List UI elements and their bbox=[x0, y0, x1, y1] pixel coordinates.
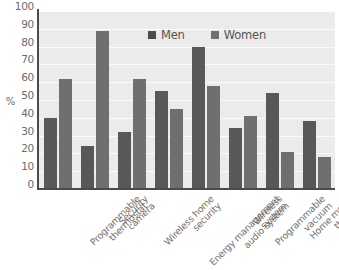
bar-men bbox=[266, 93, 279, 189]
bar-women bbox=[207, 86, 220, 189]
chart-legend: MenWomen bbox=[148, 28, 266, 42]
bar-men bbox=[155, 91, 168, 189]
y-axis-tick-labels: 0102030405060708090100 bbox=[14, 6, 36, 189]
legend-swatch-icon bbox=[148, 31, 156, 39]
y-axis-tick-label: 40 bbox=[21, 108, 34, 118]
y-axis-tick-label: 50 bbox=[21, 90, 34, 100]
bar-women bbox=[318, 157, 331, 189]
y-axis-tick-label: 0 bbox=[28, 179, 34, 189]
bar-men bbox=[229, 128, 242, 189]
bar-men bbox=[118, 132, 131, 189]
y-axis-tick-label: 100 bbox=[15, 1, 34, 11]
bar-group bbox=[298, 11, 335, 189]
bar-women bbox=[244, 116, 257, 189]
y-axis-tick-label: 80 bbox=[21, 37, 34, 47]
y-axis-tick-label: 30 bbox=[21, 126, 34, 136]
y-axis-tick-label: 70 bbox=[21, 54, 34, 64]
y-axis-tick-label: 20 bbox=[21, 143, 34, 153]
bar-group bbox=[39, 11, 76, 189]
bar-men bbox=[192, 47, 205, 189]
legend-label: Women bbox=[224, 28, 266, 42]
bar-women bbox=[133, 79, 146, 189]
y-axis-tick-label: 10 bbox=[21, 161, 34, 171]
legend-label: Men bbox=[161, 28, 185, 42]
legend-item-women: Women bbox=[211, 28, 266, 42]
legend-item-men: Men bbox=[148, 28, 185, 42]
bar-men bbox=[303, 121, 316, 189]
bar-chart: % 0102030405060708090100 MenWomen Progra… bbox=[0, 0, 339, 270]
y-axis-title: % bbox=[1, 96, 15, 107]
y-axis-line bbox=[37, 9, 39, 190]
x-axis-category-labels: ProgrammablethermostatSecuritycameraWire… bbox=[39, 191, 335, 270]
bar-group bbox=[113, 11, 150, 189]
legend-swatch-icon bbox=[211, 31, 219, 39]
bar-women bbox=[59, 79, 72, 189]
bar-men bbox=[44, 118, 57, 189]
y-axis-tick-label: 60 bbox=[21, 72, 34, 82]
bar-women bbox=[170, 109, 183, 189]
x-axis-label: Wireless homesecurity bbox=[162, 194, 223, 255]
y-axis-tick-label: 90 bbox=[21, 19, 34, 29]
x-axis-line bbox=[37, 188, 335, 190]
bar-women bbox=[96, 31, 109, 189]
bar-group bbox=[76, 11, 113, 189]
bar-men bbox=[81, 146, 94, 189]
bar-women bbox=[281, 152, 294, 189]
bar-group bbox=[261, 11, 298, 189]
